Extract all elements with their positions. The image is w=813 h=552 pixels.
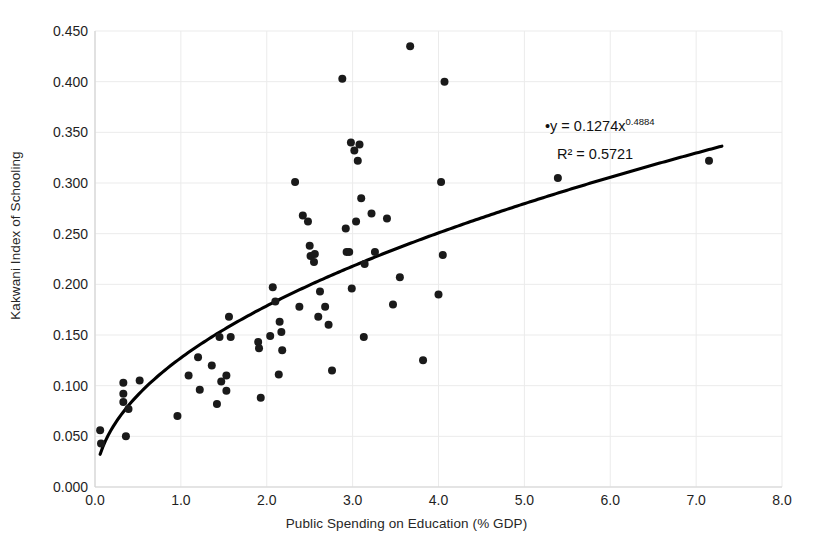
data-point xyxy=(348,284,356,292)
data-point xyxy=(97,439,105,447)
data-point xyxy=(361,260,369,268)
data-point xyxy=(437,178,445,186)
data-point xyxy=(257,394,265,402)
data-point xyxy=(208,361,216,369)
data-point xyxy=(328,366,336,374)
data-point xyxy=(122,432,130,440)
plot-area xyxy=(0,0,813,552)
data-point xyxy=(119,379,127,387)
data-point xyxy=(325,321,333,329)
data-point xyxy=(383,214,391,222)
data-point xyxy=(271,298,279,306)
data-point xyxy=(360,333,368,341)
data-point xyxy=(266,332,274,340)
gridlines xyxy=(95,31,782,487)
data-point xyxy=(276,318,284,326)
data-point xyxy=(321,303,329,311)
data-point xyxy=(119,390,127,398)
trendline-path xyxy=(100,146,722,454)
data-point xyxy=(124,405,132,413)
equation-exponent: 0.4884 xyxy=(625,116,654,127)
data-point xyxy=(419,356,427,364)
data-point xyxy=(310,258,318,266)
data-point xyxy=(342,225,350,233)
data-point xyxy=(439,251,447,259)
data-point xyxy=(225,313,233,321)
data-point xyxy=(269,283,277,291)
data-point xyxy=(277,328,285,336)
data-point xyxy=(368,209,376,217)
data-point xyxy=(255,344,263,352)
data-point xyxy=(354,157,362,165)
data-point xyxy=(222,372,230,380)
data-point xyxy=(173,412,181,420)
data-point xyxy=(306,242,314,250)
data-point xyxy=(291,178,299,186)
data-point xyxy=(345,248,353,256)
data-point xyxy=(357,194,365,202)
data-point xyxy=(311,250,319,258)
data-point xyxy=(119,398,127,406)
data-point xyxy=(278,346,286,354)
data-point xyxy=(705,157,713,165)
data-point xyxy=(406,42,414,50)
data-point xyxy=(304,218,312,226)
data-point xyxy=(389,301,397,309)
data-point xyxy=(356,140,364,148)
data-point xyxy=(554,174,562,182)
scatter-chart: Kakwani Index of Schooling Public Spendi… xyxy=(0,0,813,552)
data-point xyxy=(314,313,322,321)
data-point xyxy=(227,333,235,341)
data-point xyxy=(338,75,346,83)
data-point xyxy=(299,211,307,219)
data-point xyxy=(196,386,204,394)
data-point xyxy=(347,138,355,146)
data-point xyxy=(275,371,283,379)
data-point xyxy=(441,78,449,86)
r-squared-label: R² = 0.5721 xyxy=(557,146,633,162)
data-point xyxy=(136,377,144,385)
data-point xyxy=(316,287,324,295)
data-point xyxy=(213,400,221,408)
trendline-equation-label: •y = 0.1274x0.4884 xyxy=(545,116,655,134)
data-point xyxy=(194,353,202,361)
data-point xyxy=(435,290,443,298)
data-point xyxy=(371,248,379,256)
data-point xyxy=(96,426,104,434)
data-point xyxy=(350,147,358,155)
equation-text: y = 0.1274x xyxy=(550,118,625,134)
data-point xyxy=(185,372,193,380)
data-point xyxy=(295,303,303,311)
data-point xyxy=(352,218,360,226)
data-point xyxy=(217,378,225,386)
data-point xyxy=(216,333,224,341)
data-point xyxy=(396,273,404,281)
data-point xyxy=(222,387,230,395)
